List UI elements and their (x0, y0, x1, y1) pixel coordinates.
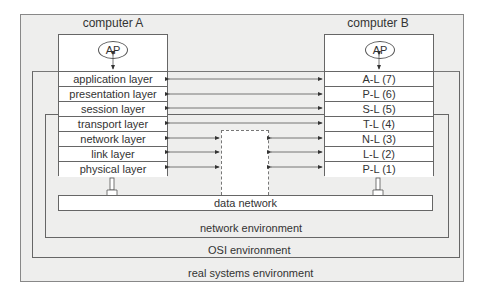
network-environment-label: network environment (200, 222, 302, 234)
osi-environment-label: OSI environment (208, 244, 291, 256)
real-systems-environment-label: real systems environment (188, 267, 313, 279)
connection-arrows (0, 0, 492, 303)
